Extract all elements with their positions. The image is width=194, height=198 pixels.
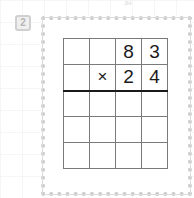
grid-cell-digit: 2: [116, 65, 142, 91]
multiplication-grid: 8 3 × 2 4: [63, 38, 168, 169]
answer-cell[interactable]: [90, 143, 116, 169]
answer-cell[interactable]: [90, 117, 116, 143]
grid-cell-digit: 4: [142, 65, 168, 91]
grid-cell-digit: 3: [142, 39, 168, 65]
answer-cell[interactable]: [116, 91, 142, 117]
grid-row-multiplier: × 2 4: [64, 65, 168, 91]
grid-row-answer: [64, 91, 168, 117]
answer-cell[interactable]: [90, 91, 116, 117]
grid-cell[interactable]: [90, 39, 116, 65]
answer-cell[interactable]: [64, 143, 90, 169]
question-number-badge: 2: [15, 15, 31, 31]
answer-cell[interactable]: [142, 117, 168, 143]
answer-cell[interactable]: [116, 143, 142, 169]
answer-cell[interactable]: [142, 143, 168, 169]
grid-row-multiplicand: 8 3: [64, 39, 168, 65]
answer-cell[interactable]: [64, 91, 90, 117]
grid-cell[interactable]: [64, 65, 90, 91]
answer-cell[interactable]: [116, 117, 142, 143]
grid-cell-digit: 8: [116, 39, 142, 65]
grid-row-answer: [64, 143, 168, 169]
grid-cell[interactable]: [64, 39, 90, 65]
answer-cell[interactable]: [142, 91, 168, 117]
times-sign: ×: [90, 65, 116, 91]
grid-row-answer: [64, 117, 168, 143]
page-mark: JH: [124, 0, 131, 6]
answer-cell[interactable]: [64, 117, 90, 143]
